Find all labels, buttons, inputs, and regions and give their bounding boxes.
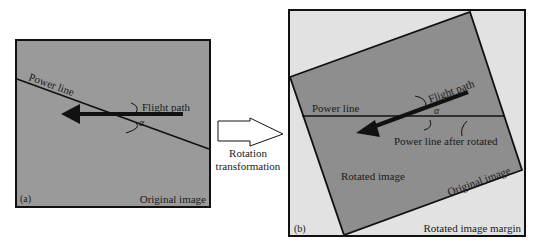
angle-label-a: α xyxy=(139,117,145,128)
hollow-arrow-icon xyxy=(218,118,283,146)
angle-label-b: α xyxy=(434,105,440,116)
rotation-diagram: Power line Flight path α (a) Original im… xyxy=(0,0,539,251)
panel-tag-b: (b) xyxy=(294,223,306,235)
flight-path-label-a: Flight path xyxy=(142,101,190,113)
power-line-label-b: Power line xyxy=(312,102,359,114)
rotation-transition: Rotation transformation xyxy=(216,118,283,172)
rotation-label-line1: Rotation xyxy=(229,147,267,159)
original-image-a xyxy=(16,40,210,207)
rotated-image-margin-label: Rotated image margin xyxy=(423,222,521,234)
power-line-after-label: Power line after rotated xyxy=(394,135,498,147)
panel-b: Power line Flight path α Power line afte… xyxy=(289,10,525,236)
original-image-label-a: Original image xyxy=(140,193,206,205)
panel-a: Power line Flight path α (a) Original im… xyxy=(16,40,210,207)
rotation-label-line2: transformation xyxy=(216,160,281,172)
rotated-image-label: Rotated image xyxy=(341,170,405,182)
panel-tag-a: (a) xyxy=(20,193,31,205)
